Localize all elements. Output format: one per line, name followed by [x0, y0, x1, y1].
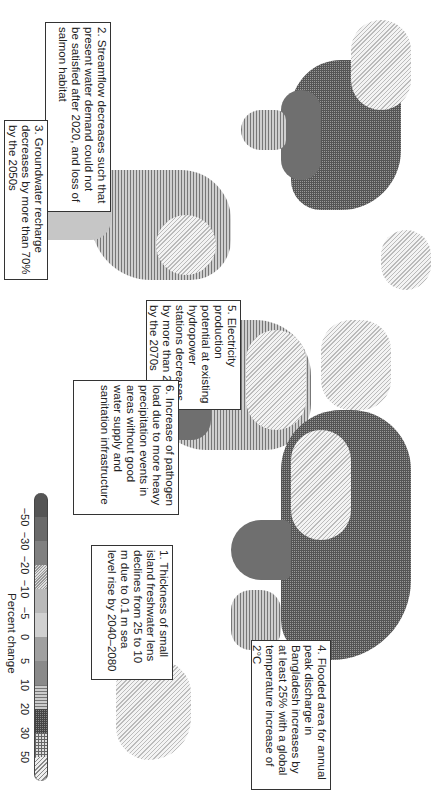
legend-class-10-20 — [34, 685, 48, 709]
region-brazil-east — [156, 215, 216, 275]
annotation-2: 2. Streamflow decreases such that presen… — [45, 22, 111, 212]
region-central-asia — [291, 430, 351, 540]
legend-tick: 0 — [19, 634, 31, 640]
region-sahara — [246, 330, 306, 430]
region-us-south — [281, 90, 321, 180]
legend-tick: −5 — [19, 607, 31, 620]
legend-tick: −50 — [19, 508, 31, 527]
legend-tick: −20 — [19, 556, 31, 575]
region-europe — [321, 320, 391, 410]
legend: −50 −30 −20 −10 −5 0 5 10 20 30 50 Perce… — [4, 493, 48, 783]
legend-tick: 10 — [19, 679, 31, 691]
legend-class-50-30 — [34, 517, 48, 541]
region-mexico — [241, 110, 286, 150]
legend-tick: 5 — [19, 658, 31, 664]
annotation-4: 4. Flooded area for annual peak discharg… — [251, 640, 331, 790]
region-alaska-canada — [351, 20, 411, 110]
legend-class-lt-50 — [34, 493, 48, 517]
legend-class-20-10 — [34, 565, 48, 589]
legend-class-5-0 — [34, 613, 48, 637]
annotation-3-box: 3. Groundwater recharge decreases by mor… — [4, 120, 48, 280]
legend-class-10-5 — [34, 589, 48, 613]
legend-class-20-30 — [34, 709, 48, 733]
region-india — [231, 520, 291, 580]
annotation-6-text: 6. Increase of pathogen load due to more… — [73, 380, 179, 515]
legend-tick: 30 — [19, 727, 31, 739]
map-figure: 2. Streamflow decreases such that presen… — [0, 0, 441, 794]
legend-title: Percent change — [6, 593, 18, 674]
legend-class-0-5 — [34, 637, 48, 661]
legend-tick: −10 — [19, 580, 31, 599]
region-greenland — [381, 230, 431, 290]
legend-class-30-20 — [34, 541, 48, 565]
region-south-america — [91, 170, 231, 280]
legend-class-30-50 — [34, 733, 48, 757]
annotation-1: 1. Thickness of small island freshwater … — [91, 545, 173, 680]
legend-tick: 20 — [19, 703, 31, 715]
legend-tick: −30 — [19, 532, 31, 551]
legend-class-gt-50 — [34, 757, 48, 781]
legend-class-5-10 — [34, 661, 48, 685]
legend-tick: 50 — [19, 751, 31, 763]
